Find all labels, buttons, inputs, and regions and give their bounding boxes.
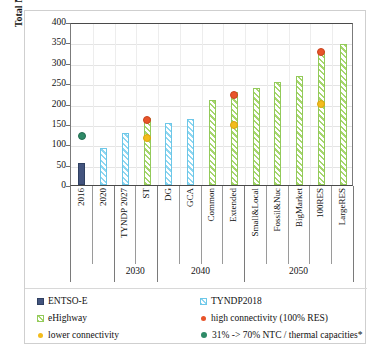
legend-marker-high-connectivity-icon [201, 316, 206, 321]
category-tick: Small&Local [244, 186, 266, 264]
category-separator [179, 186, 180, 264]
vertical-gridline [310, 24, 311, 185]
category-tick: 2020 [92, 186, 114, 264]
bar [274, 82, 281, 185]
vertical-gridline [136, 24, 137, 185]
scatter-marker [143, 134, 151, 142]
vertical-gridline [289, 24, 290, 185]
category-separator [309, 186, 310, 264]
scatter-marker [317, 48, 325, 56]
category-tick: BigMarket [288, 186, 310, 264]
bar [209, 100, 216, 185]
legend-swatch-entsoe-icon [37, 298, 44, 305]
y-tick-label: 0 [25, 181, 66, 191]
category-separator [201, 186, 202, 264]
x-tick-label: Extended [228, 188, 238, 222]
bar [187, 119, 194, 185]
category-separator [92, 186, 93, 264]
x-tick-label: 2016 [76, 188, 86, 206]
y-tick-label: 400 [25, 18, 66, 28]
group-label: 2050 [244, 266, 353, 276]
legend-marker-ntc-thermal-icon [201, 332, 207, 338]
category-tick: TYNDP 2027 [114, 186, 136, 264]
vertical-gridline [202, 24, 203, 185]
vertical-gridline [245, 24, 246, 185]
category-tick: LargeRES [331, 186, 353, 264]
vertical-gridline [267, 24, 268, 185]
category-separator [288, 186, 289, 264]
bar [253, 88, 260, 185]
scatter-marker [317, 100, 325, 108]
x-tick-label: 100RES [315, 188, 325, 218]
legend-item-ehighway: eHighway [37, 313, 87, 323]
group-label: 2030 [114, 266, 158, 276]
group-separator [353, 186, 354, 282]
category-tick: DG [157, 186, 179, 264]
vertical-gridline [158, 24, 159, 185]
legend-label-entsoe: ENTSO-E [48, 296, 88, 306]
chart-plot-region: Total NTC [GW] 050100150200250300350400 … [25, 11, 367, 286]
legend-label-lower-connectivity: lower connectivity [48, 330, 119, 340]
category-axis: 20162020TYNDP 2027STDGGCACommonExtendedS… [70, 186, 353, 286]
vertical-gridline [332, 24, 333, 185]
bar [144, 118, 151, 185]
legend-swatch-ehighway-icon [37, 315, 44, 322]
category-separator [135, 186, 136, 264]
bar [340, 44, 347, 185]
legend-item-tyndp: TYNDP2018 [200, 296, 262, 306]
legend-item-lower-connectivity: lower connectivity [37, 330, 119, 340]
category-tick: 100RES [309, 186, 331, 264]
legend-marker-lower-connectivity-icon [38, 333, 43, 338]
category-tick: ST [135, 186, 157, 264]
scatter-marker [230, 91, 238, 99]
bar [78, 163, 85, 185]
bar [165, 123, 172, 185]
category-separator [331, 186, 332, 264]
vertical-gridline [93, 24, 94, 185]
category-tick: Common [201, 186, 223, 264]
chart-legend: ENTSO-E TYNDP2018 eHighway high connecti… [25, 288, 367, 345]
legend-label-high-connectivity: high connectivity (100% RES) [211, 313, 328, 323]
x-tick-label: 2020 [98, 188, 108, 206]
bar [100, 148, 107, 185]
x-tick-label: LargeRES [337, 188, 347, 225]
category-tick: GCA [179, 186, 201, 264]
vertical-gridline [115, 24, 116, 185]
bar [318, 51, 325, 185]
scatter-marker [230, 121, 238, 129]
y-tick-label: 300 [25, 59, 66, 69]
legend-swatch-tyndp-icon [200, 298, 207, 305]
scatter-marker [143, 116, 151, 124]
bar [231, 92, 238, 185]
y-tick-label: 150 [25, 120, 66, 130]
y-axis-title: Total NTC [GW] [13, 0, 24, 51]
legend-item-entsoe: ENTSO-E [37, 296, 88, 306]
legend-item-ntc-thermal: 31% -> 70% NTC / thermal capacities* [200, 330, 362, 340]
group-label: 2040 [157, 266, 244, 276]
category-separator [222, 186, 223, 264]
x-tick-label: DG [163, 188, 173, 201]
category-tick: Extended [222, 186, 244, 264]
category-tick: Fossil&Nuc [266, 186, 288, 264]
category-tick: 2016 [70, 186, 92, 264]
group-separator [70, 186, 71, 282]
y-tick-label: 250 [25, 79, 66, 89]
x-tick-label: ST [141, 188, 151, 199]
y-tick-label: 200 [25, 100, 66, 110]
vertical-gridline [180, 24, 181, 185]
y-tick-label: 100 [25, 140, 66, 150]
x-tick-label: Common [206, 188, 216, 222]
legend-item-high-connectivity: high connectivity (100% RES) [200, 313, 328, 323]
category-separator [266, 186, 267, 264]
bar [296, 76, 303, 185]
legend-label-ntc-thermal: 31% -> 70% NTC / thermal capacities* [212, 330, 362, 340]
y-tick-label: 350 [25, 38, 66, 48]
vertical-gridline [223, 24, 224, 185]
chart-figure: Total NTC [GW] 050100150200250300350400 … [24, 10, 366, 344]
x-tick-label: Small&Local [250, 188, 260, 237]
x-tick-label: GCA [185, 188, 195, 207]
x-tick-label: Fossil&Nuc [272, 188, 282, 232]
bar [122, 133, 129, 185]
x-tick-label: TYNDP 2027 [119, 188, 129, 238]
y-tick-label: 50 [25, 161, 66, 171]
